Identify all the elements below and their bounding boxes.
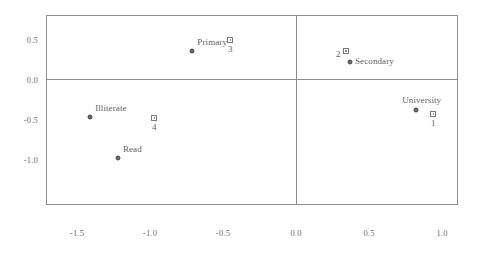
y-tick-label: -1.0 — [24, 155, 38, 165]
x-tick-label: -1.5 — [70, 228, 84, 238]
data-point-label: 2 — [336, 49, 341, 59]
data-point-square[interactable] — [151, 115, 157, 121]
data-point-label: 1 — [431, 118, 436, 128]
zero-line-vertical — [296, 15, 297, 205]
x-tick-label: 0.0 — [290, 228, 301, 238]
data-point-label: Secondary — [355, 56, 394, 66]
y-tick-label: -0.5 — [24, 115, 38, 125]
x-tick-label: 1.0 — [436, 228, 447, 238]
data-point-square[interactable] — [430, 111, 436, 117]
data-point-label: Illiterate — [95, 103, 126, 113]
data-point-label: Read — [123, 144, 142, 154]
data-point-square[interactable] — [343, 48, 349, 54]
x-tick-label: -0.5 — [216, 228, 230, 238]
data-point-circle[interactable] — [190, 48, 195, 53]
x-tick-label: 0.5 — [363, 228, 374, 238]
data-point-circle[interactable] — [348, 59, 353, 64]
zero-line-horizontal — [46, 79, 458, 80]
x-tick-label: -1.0 — [143, 228, 157, 238]
scatter-chart: -1.5-1.0-0.50.00.51.0 0.50.0-0.5-1.0 Ill… — [0, 0, 487, 258]
data-point-circle[interactable] — [413, 107, 418, 112]
y-tick-label: 0.0 — [27, 75, 38, 85]
data-point-label: University — [402, 95, 441, 105]
data-point-square[interactable] — [227, 37, 233, 43]
data-point-circle[interactable] — [88, 115, 93, 120]
data-point-label: 4 — [152, 122, 157, 132]
data-point-label: 3 — [228, 44, 233, 54]
data-point-circle[interactable] — [115, 155, 120, 160]
y-tick-label: 0.5 — [27, 35, 38, 45]
data-point-label: Primary — [197, 37, 227, 47]
